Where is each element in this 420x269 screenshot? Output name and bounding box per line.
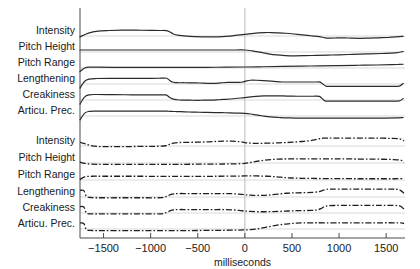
- row-label-upper-panel-3: Lengthening: [17, 72, 75, 84]
- trace-upper-panel-intensity: [80, 30, 403, 38]
- trace-lower-panel-pitch-height: [80, 159, 404, 164]
- row-label-lower-panel-2: Pitch Range: [18, 168, 75, 180]
- row-label-upper-panel-5: Articu. Prec.: [18, 104, 75, 116]
- row-label-lower-panel-3: Lengthening: [17, 185, 75, 197]
- row-label-lower-panel-1: Pitch Height: [18, 151, 75, 163]
- chart-svg: −1500−1000−500050010001500millisecondsIn…: [0, 0, 420, 269]
- x-tick-label-3: 0: [242, 242, 248, 254]
- x-tick-label-5: 1000: [327, 242, 351, 254]
- x-tick-label-1: −1000: [135, 242, 166, 254]
- x-tick-label-4: 500: [283, 242, 301, 254]
- x-tick-label-2: −500: [185, 242, 210, 254]
- row-label-upper-panel-2: Pitch Range: [18, 56, 75, 68]
- trace-upper-panel-lengthening: [80, 78, 403, 88]
- row-label-upper-panel-4: Creakiness: [22, 88, 75, 100]
- chart-figure: −1500−1000−500050010001500millisecondsIn…: [0, 0, 420, 269]
- trace-lower-panel-pitch-range: [80, 176, 404, 180]
- trace-lower-panel-intensity: [80, 138, 404, 147]
- row-label-upper-panel-1: Pitch Height: [18, 40, 75, 52]
- trace-upper-panel-creakiness: [80, 95, 403, 105]
- x-tick-label-0: −1500: [88, 242, 119, 254]
- row-label-upper-panel-0: Intensity: [36, 24, 76, 36]
- trace-upper-panel-pitch-height: [80, 50, 403, 56]
- row-label-lower-panel-5: Articu. Prec.: [18, 217, 75, 229]
- x-axis-title: milliseconds: [214, 256, 271, 268]
- row-label-lower-panel-0: Intensity: [36, 134, 76, 146]
- x-tick-label-6: 1500: [374, 242, 398, 254]
- trace-upper-panel-articu-prec: [80, 111, 403, 120]
- trace-lower-panel-lengthening: [80, 189, 404, 198]
- row-label-lower-panel-4: Creakiness: [22, 201, 75, 213]
